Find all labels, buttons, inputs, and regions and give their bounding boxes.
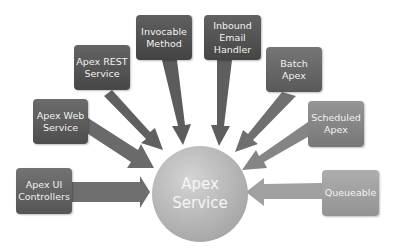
node-inbound-email-handler: InboundEmailHandler: [204, 15, 261, 60]
apex-service-hub: Apex Service: [152, 146, 248, 242]
node-label: Apex: [309, 124, 363, 136]
apex-service-diagram: Apex Service Apex UIControllers Apex Web…: [0, 0, 398, 251]
node-apex-web-service: Apex WebService: [33, 99, 88, 144]
node-apex-ui-controllers: Apex UIControllers: [16, 168, 72, 214]
hub-label-line1: Apex: [172, 175, 227, 194]
arrow-invocable-method: [162, 60, 191, 145]
node-label: Batch Apex: [266, 58, 322, 82]
node-label: Apex REST: [74, 56, 129, 68]
node-label: Service: [35, 122, 87, 134]
node-label: Inbound: [211, 20, 254, 32]
node-batch-apex: Batch Apex: [266, 47, 322, 92]
node-label: Service: [74, 68, 129, 80]
arrow-inbound-email: [211, 60, 232, 146]
node-invocable-method: InvocableMethod: [136, 15, 192, 60]
node-label: Queueable: [323, 187, 379, 199]
node-label: Method: [139, 38, 189, 50]
node-scheduled-apex: ScheduledApex: [308, 101, 364, 147]
node-label: Controllers: [16, 191, 72, 203]
node-apex-rest-service: Apex RESTService: [74, 45, 130, 90]
node-label: Scheduled: [309, 112, 363, 124]
node-label: Apex Web: [35, 110, 87, 122]
hub-label-line2: Service: [172, 194, 227, 213]
node-queueable: Queueable: [322, 170, 379, 216]
node-label: Email: [211, 32, 254, 44]
node-label: Apex UI: [16, 179, 72, 191]
node-label: Handler: [211, 44, 254, 56]
arrow-queueable: [246, 178, 322, 206]
node-label: Invocable: [139, 26, 189, 38]
arrow-ui-controllers: [72, 176, 150, 208]
